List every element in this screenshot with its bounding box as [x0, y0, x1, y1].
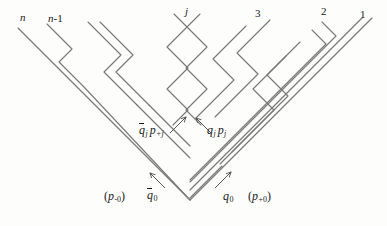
momentum-right-vertex: qjpj	[207, 124, 226, 138]
p-subscript-bottom-right: +0	[258, 195, 267, 204]
q-subscript-bottom-left: 0	[153, 194, 157, 203]
q-symbol-left: q	[139, 123, 145, 137]
p-subscript-bottom-left: -0	[114, 195, 121, 204]
worldline-1	[190, 18, 372, 200]
p-subscript-right: j	[224, 129, 227, 138]
worldline-right-base	[190, 166, 222, 198]
momentum-bottom-left-q: q0	[147, 189, 157, 203]
overbar-left	[139, 123, 144, 124]
worldline-n	[18, 28, 190, 200]
zigzag-right-b2	[196, 26, 246, 118]
q-bar-j-group: q	[139, 124, 145, 136]
p-subscript-left: +j	[156, 129, 164, 138]
paren-close-right: )	[267, 189, 271, 203]
worldline-j-right	[174, 14, 207, 125]
p-symbol-left: p	[150, 123, 156, 137]
q-symbol-bottom-left: q	[147, 188, 153, 202]
arrow-bottom-left	[150, 173, 165, 188]
momentum-bottom-right-q: q0	[223, 190, 233, 204]
arrow-bottom-right	[215, 172, 231, 188]
paren-close-left: )	[121, 189, 125, 203]
figure-root: n n-1 j 3 2 1 qjp+j qjpj (p-0) q0 q0 (p+…	[0, 0, 387, 226]
q-subscript-right: j	[213, 129, 216, 138]
label-line-n: n	[20, 12, 26, 23]
label-line-2: 2	[321, 6, 327, 17]
worldline-2b	[190, 30, 326, 180]
q-bar-0-group-left: q	[147, 189, 153, 201]
scattering-diagram	[0, 0, 387, 226]
label-line-3: 3	[255, 8, 261, 19]
label-line-j: j	[185, 6, 188, 17]
q-subscript-bottom-right: 0	[229, 195, 233, 204]
p-symbol-right: p	[218, 123, 224, 137]
label-line-n-minus-1: n-1	[48, 13, 63, 24]
label-n-minus-1-suffix: -1	[54, 12, 63, 24]
momentum-left-vertex: qjp+j	[139, 124, 164, 138]
q-subscript-left: j	[145, 129, 148, 138]
label-line-1: 1	[360, 9, 366, 20]
overbar-bottom-left	[147, 188, 152, 189]
momentum-bottom-left-p: (p-0)	[104, 190, 125, 204]
momentum-bottom-right-p: (p+0)	[248, 190, 271, 204]
zigzag-right-c2	[220, 56, 286, 164]
worldline-1b	[190, 18, 362, 190]
worldline-j-left	[167, 14, 200, 125]
worldline-n-minus-1	[47, 24, 190, 200]
